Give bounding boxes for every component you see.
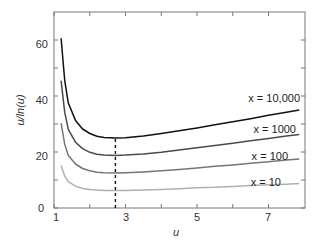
x-axis-label: u <box>173 226 179 238</box>
series-label-10000: x = 10,000 <box>248 92 300 104</box>
y-axis-label: u/ln(u) <box>14 94 26 126</box>
series-label-10: x = 10 <box>251 176 281 188</box>
x-tick-1: 1 <box>53 211 59 223</box>
series-label-1000: x = 1000 <box>253 123 296 135</box>
series-label-100: x = 100 <box>252 150 288 162</box>
x-tick-3: 3 <box>123 211 129 223</box>
y-tick-20: 20 <box>36 150 48 162</box>
curves <box>61 38 299 190</box>
line-chart: 0 20 40 60 1 3 5 7 u u/ln(u) x = 10,000 … <box>0 0 320 248</box>
x-tick-5: 5 <box>194 211 200 223</box>
y-tick-0: 0 <box>38 202 44 214</box>
y-tick-40: 40 <box>36 94 48 106</box>
x-tick-7: 7 <box>265 211 271 223</box>
y-tick-60: 60 <box>36 38 48 50</box>
